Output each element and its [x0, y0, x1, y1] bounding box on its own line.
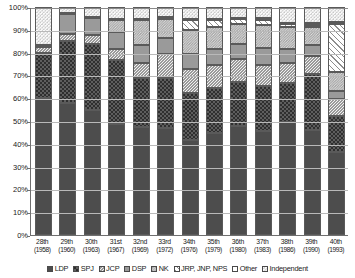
- x-axis-label-session: 38th: [281, 238, 293, 245]
- y-axis-tick-label: 30%: [0, 164, 28, 172]
- x-axis-label-session: 28th: [36, 238, 48, 245]
- bar-segment-jcp: [279, 63, 296, 83]
- legend-swatch-icon: [99, 266, 105, 272]
- x-axis-label-session: 40th: [330, 238, 342, 245]
- bar-segment-dsp: [84, 18, 101, 35]
- bar-segment-ldp: [133, 127, 150, 235]
- bar-segment-ldp: [84, 110, 101, 235]
- legend-label: Other: [240, 265, 257, 273]
- x-axis-label-session: 36th: [232, 238, 244, 245]
- legend-item[interactable]: Other: [232, 265, 257, 273]
- bar-segment-ldp: [182, 140, 199, 235]
- x-axis-label: 35th(1979): [200, 238, 226, 254]
- bar-segment-ldp: [108, 124, 125, 235]
- legend-swatch-icon: [174, 266, 180, 272]
- legend-item[interactable]: LDP: [47, 265, 68, 273]
- y-axis-tick-label: 100%: [0, 4, 28, 12]
- legend-item[interactable]: NK: [151, 265, 168, 273]
- gridline: [31, 54, 348, 55]
- x-axis-label-session: 31st: [110, 238, 122, 245]
- bar-segment-jrp: [255, 20, 272, 25]
- legend-label: JRP, JNP, NPS: [181, 265, 227, 273]
- bar-segment-ind: [328, 7, 345, 22]
- bar-segment-dsp: [157, 38, 174, 54]
- legend-item[interactable]: JCP: [99, 265, 120, 273]
- legend-item[interactable]: JRP, JNP, NPS: [174, 265, 228, 273]
- x-axis-label-session: 29th: [61, 238, 73, 245]
- bar-segment-dsp: [255, 48, 272, 65]
- x-axis-label-session: 35th: [207, 238, 219, 245]
- x-axis-label-year: (1963): [78, 246, 104, 254]
- bar-segment-ldp: [35, 98, 52, 235]
- bar-segment-jcp: [35, 47, 52, 53]
- x-axis-label: 30th(1963): [78, 238, 104, 254]
- bar-segment-other: [304, 23, 321, 26]
- bar-segment-spj: [279, 83, 296, 122]
- bar-segment-ind: [304, 7, 321, 23]
- gridline: [31, 76, 348, 77]
- x-axis-label: 36th(1980): [225, 238, 251, 254]
- x-axis-label-session: 32nd: [133, 238, 147, 245]
- x-axis-label-year: (1960): [54, 246, 80, 254]
- bar-segment-jcp: [182, 69, 199, 93]
- bar-segment-jrp: [206, 20, 223, 27]
- bar-segment-jcp: [59, 34, 76, 41]
- bar-segment-spj: [255, 86, 272, 130]
- y-axis-tick-label: 70%: [0, 72, 28, 80]
- bar-segment-spj: [108, 60, 125, 124]
- bar-segment-jrp: [182, 20, 199, 30]
- x-axis-label: 29th(1960): [54, 238, 80, 254]
- legend-swatch-icon: [47, 266, 53, 272]
- gridline: [31, 31, 348, 32]
- x-axis-label-year: (1969): [127, 246, 153, 254]
- bar-segment-ldp: [206, 133, 223, 235]
- bar-segment-dsp: [182, 54, 199, 68]
- legend-item[interactable]: SPJ: [73, 265, 93, 273]
- x-axis-label: 39th(1990): [298, 238, 324, 254]
- legend-item[interactable]: DSP: [124, 265, 146, 273]
- x-axis-label-year: (1979): [200, 246, 226, 254]
- plot-area: [30, 8, 348, 236]
- legend-swatch-icon: [124, 266, 130, 272]
- y-axis-tick-label: 80%: [0, 50, 28, 58]
- legend-swatch-icon: [232, 266, 238, 272]
- bar-segment-jcp: [230, 59, 247, 81]
- legend-swatch-icon: [262, 266, 268, 272]
- x-axis-label-year: (1990): [298, 246, 324, 254]
- gridline: [31, 8, 348, 9]
- bar-segment-jcp: [84, 35, 101, 44]
- legend-label: SPJ: [81, 265, 94, 273]
- bar-segment-dsp: [279, 49, 296, 64]
- x-axis-label: 31st(1967): [103, 238, 129, 254]
- bar-segment-jrp: [304, 25, 321, 27]
- gridline: [31, 122, 348, 123]
- bar-segment-jcp: [304, 56, 321, 74]
- bar-segment-dsp: [230, 44, 247, 59]
- x-axis-label-year: (1980): [225, 246, 251, 254]
- chart-legend: LDPSPJJCPDSPNKJRP, JNP, NPSOtherIndepend…: [0, 262, 355, 276]
- x-axis-label: 33rd(1972): [152, 238, 178, 254]
- bar-segment-jrp: [230, 19, 247, 24]
- bar-segment-spj: [133, 78, 150, 127]
- y-axis-tick-label: 40%: [0, 141, 28, 149]
- legend-item[interactable]: Independent: [262, 265, 308, 273]
- bar-segment-ldp: [230, 126, 247, 235]
- legend-swatch-icon: [151, 266, 157, 272]
- y-axis-tick-label: 0%: [0, 232, 28, 240]
- legend-label: JCP: [106, 265, 119, 273]
- bar-segment-dsp: [206, 49, 223, 65]
- bar-segment-other: [35, 45, 52, 47]
- x-axis-label-session: 34th: [183, 238, 195, 245]
- x-axis-label-year: (1958): [29, 246, 55, 254]
- x-axis-label-session: 33rd: [158, 238, 171, 245]
- y-axis-tick-label: 90%: [0, 27, 28, 35]
- y-axis-tick-mark: [27, 236, 30, 237]
- legend-label: DSP: [132, 265, 146, 273]
- bar-segment-jcp: [157, 54, 174, 78]
- y-axis-tick-label: 20%: [0, 186, 28, 194]
- stacked-bar-chart: 100%90%80%70%60%50%40%30%20%10%0% 28th(1…: [0, 0, 355, 278]
- x-axis-label-year: (1972): [152, 246, 178, 254]
- legend-swatch-icon: [73, 266, 79, 272]
- bar-segment-spj: [230, 82, 247, 126]
- x-axis-label-year: (1986): [274, 246, 300, 254]
